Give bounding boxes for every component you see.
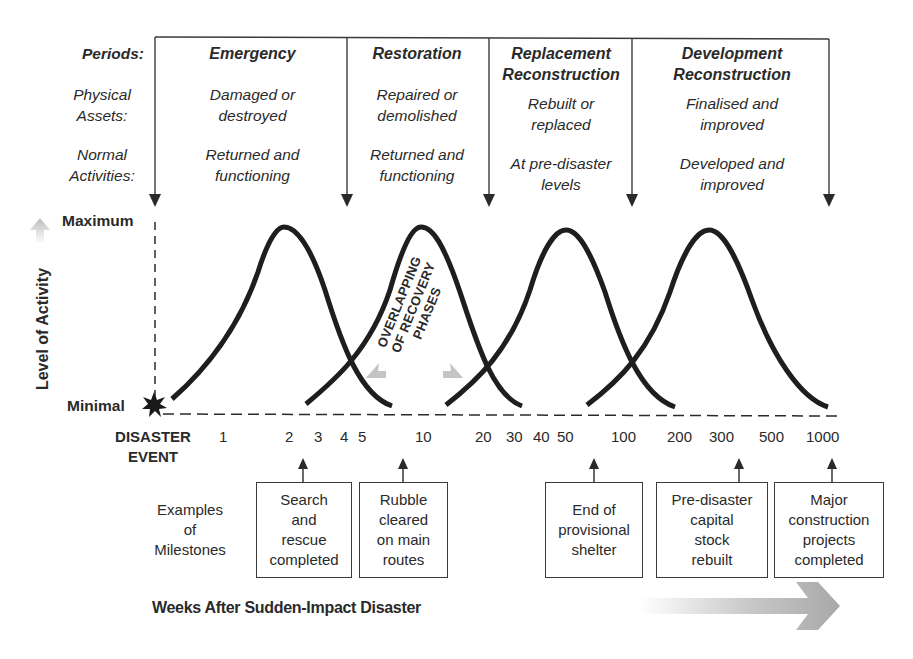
milestone-line: shelter [558, 540, 630, 560]
recovery-phase-curves [172, 227, 828, 407]
milestones-label-line1: Examples [140, 500, 240, 520]
x-tick: 50 [557, 428, 574, 445]
milestone-line: Major [789, 490, 870, 510]
x-tick: 200 [667, 428, 692, 445]
y-axis-title: Level of Activity [34, 254, 52, 404]
x-tick: 20 [475, 428, 492, 445]
curve-development [587, 230, 828, 407]
milestone-line: and [269, 510, 338, 530]
milestone-line: Rubble [377, 490, 430, 510]
milestone-line: completed [789, 550, 870, 570]
x-tick: 100 [611, 428, 636, 445]
milestone-pointers [303, 467, 832, 482]
milestone-line: Search [269, 490, 338, 510]
milestone-line: rescue [269, 530, 338, 550]
milestone-box-provisional-shelter: End of provisional shelter [545, 482, 643, 578]
x-tick: 500 [759, 428, 784, 445]
x-tick: 10 [415, 428, 432, 445]
disaster-starburst-icon [142, 392, 167, 417]
x-tick: 1000 [806, 428, 839, 445]
period-bracket [155, 37, 829, 196]
milestone-line: projects [789, 530, 870, 550]
milestone-line: completed [269, 550, 338, 570]
milestone-box-major-construction: Major construction projects completed [774, 482, 884, 578]
x-tick: 5 [358, 428, 366, 445]
curve-emergency [172, 227, 392, 406]
milestone-line: stock [672, 530, 753, 550]
overlap-arrow-right-icon [443, 363, 463, 378]
period-divider-arrowheads [149, 194, 835, 207]
milestones-label-line2: of [140, 520, 240, 540]
x-axis-origin-label: DISASTER EVENT [104, 427, 202, 467]
milestone-pointer-arrowheads [298, 458, 837, 469]
milestone-box-search-rescue: Search and rescue completed [256, 482, 352, 578]
y-axis-max-label: Maximum [62, 212, 134, 230]
milestone-box-rubble-cleared: Rubble cleared on main routes [359, 482, 448, 578]
x-tick: 3 [314, 428, 322, 445]
x-tick: 2 [285, 428, 293, 445]
curve-replacement [446, 230, 675, 407]
milestone-line: Pre-disaster [672, 490, 753, 510]
milestone-line: construction [789, 510, 870, 530]
milestone-line: End of [558, 500, 630, 520]
x-tick: 40 [533, 428, 550, 445]
milestone-line: cleared [377, 510, 430, 530]
x-axis-title: Weeks After Sudden-Impact Disaster [152, 599, 421, 617]
x-tick: 30 [506, 428, 523, 445]
timeline-gradient-arrow-icon [640, 582, 840, 630]
milestone-line: provisional [558, 520, 630, 540]
y-axis-up-arrow-icon [30, 218, 50, 244]
milestones-label: Examples of Milestones [140, 500, 240, 560]
milestone-line: on main [377, 530, 430, 550]
milestone-line: rebuilt [672, 550, 753, 570]
milestones-label-line3: Milestones [140, 540, 240, 560]
x-tick: 300 [709, 428, 734, 445]
x-axis-origin-label-line1: DISASTER [104, 427, 202, 447]
milestone-box-capital-stock: Pre-disaster capital stock rebuilt [656, 482, 768, 578]
x-axis-dashed-line [163, 414, 840, 416]
x-tick: 1 [219, 428, 227, 445]
milestone-line: routes [377, 550, 430, 570]
milestone-line: capital [672, 510, 753, 530]
x-tick: 4 [340, 428, 348, 445]
y-axis-min-label: Minimal [67, 397, 125, 415]
x-axis-origin-label-line2: EVENT [104, 447, 202, 467]
